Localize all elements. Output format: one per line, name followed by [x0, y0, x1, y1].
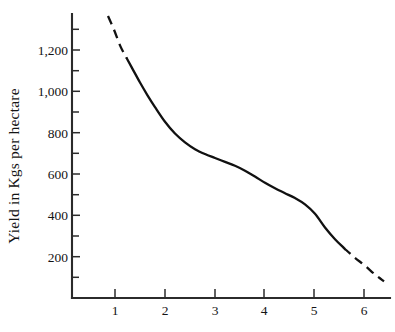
y-tick-label: 400 [48, 208, 69, 223]
chart-plot-area: 1,200 1,000 800 600 400 200 1 2 3 4 5 6 [0, 0, 395, 332]
x-tick-label: 6 [361, 303, 368, 318]
x-tick-label: 3 [212, 303, 219, 318]
y-tick-label: 200 [48, 250, 69, 265]
chart-container: Yield in Kgs per hectare 1,200 [0, 0, 395, 332]
y-axis-tick-labels: 1,200 1,000 800 600 400 200 [38, 43, 69, 265]
y-tick-label: 600 [48, 167, 69, 182]
yield-curve-solid [127, 59, 344, 248]
x-axis-ticks [115, 289, 364, 298]
x-tick-label: 1 [112, 303, 119, 318]
x-tick-label: 5 [311, 303, 318, 318]
y-tick-label: 800 [48, 126, 69, 141]
yield-curve-dashed-lower [344, 248, 384, 281]
y-tick-label: 1,000 [38, 84, 69, 99]
x-axis-tick-labels: 1 2 3 4 5 6 [112, 303, 368, 318]
y-tick-label: 1,200 [38, 43, 69, 58]
yield-curve-dashed-upper [108, 16, 127, 59]
x-tick-label: 4 [261, 303, 268, 318]
x-tick-label: 2 [162, 303, 169, 318]
